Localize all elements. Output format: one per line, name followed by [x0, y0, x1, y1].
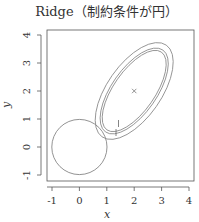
x-tick-labels: -1 0 1 2 3 4 [47, 195, 192, 206]
x-tick-label: 1 [104, 195, 110, 206]
x-tick-label: 4 [186, 195, 192, 206]
x-tick-label: 3 [158, 195, 164, 206]
y-axis [37, 35, 41, 175]
y-tick-label: 3 [21, 60, 32, 66]
y-tick-label: -1 [21, 170, 32, 180]
y-tick-labels: 4 3 2 1 0 -1 [21, 32, 32, 180]
x-tick-label: -1 [47, 195, 57, 206]
x-axis-label: x [104, 208, 111, 221]
y-tick-label: 2 [21, 88, 32, 94]
x-tick-label: 0 [76, 195, 82, 206]
center-marker [132, 89, 136, 93]
x-tick-label: 2 [131, 195, 137, 206]
y-tick-label: 4 [21, 32, 32, 38]
constraint-circle [52, 119, 107, 174]
y-tick-label: 0 [21, 144, 32, 150]
y-axis-label: y [0, 101, 13, 109]
y-tick-label: 1 [21, 116, 32, 122]
x-axis [47, 187, 189, 191]
chart-svg: -1 0 1 2 3 4 4 3 2 1 0 -1 x y [0, 0, 199, 222]
